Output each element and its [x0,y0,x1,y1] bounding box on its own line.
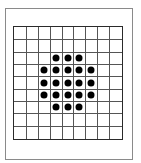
dot [52,104,59,111]
grid-line-vertical [26,27,27,139]
dot [40,67,47,74]
grid-line-vertical [97,27,98,139]
dot [64,79,71,86]
dot-grid [13,26,123,140]
dot [64,54,71,61]
grid-line-vertical [109,27,110,139]
grid-line-vertical [50,27,51,139]
grid-line-horizontal [14,64,122,65]
dot [76,54,83,61]
dot [64,91,71,98]
dot [76,67,83,74]
grid-line-horizontal [14,89,122,90]
dot [40,91,47,98]
grid-line-horizontal [14,101,122,102]
grid-line-horizontal [14,52,122,53]
grid-line-vertical [62,27,63,139]
dot [76,91,83,98]
grid-line-horizontal [14,126,122,127]
grid-line-horizontal [14,39,122,40]
grid-line-vertical [38,27,39,139]
dot [52,91,59,98]
dot [52,67,59,74]
dot [76,104,83,111]
dot [76,79,83,86]
dot [64,67,71,74]
dot [88,91,95,98]
dot [88,79,95,86]
grid-line-horizontal [14,113,122,114]
dot [40,79,47,86]
grid-line-horizontal [14,76,122,77]
grid-line-vertical [85,27,86,139]
grid-line-vertical [73,27,74,139]
dot [88,67,95,74]
dot [52,79,59,86]
dot [64,104,71,111]
dot [52,54,59,61]
